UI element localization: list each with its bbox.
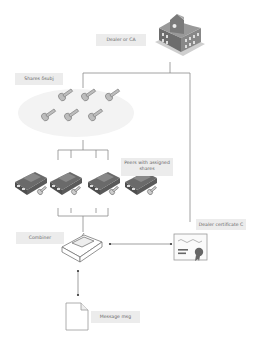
building-icon [155,14,205,56]
combiner-label: Combiner [16,232,64,244]
message-label: Message msg [91,311,140,323]
certificate-label: Dealer certificate C [196,219,246,230]
peers-label-line2: shares [123,166,171,172]
dealer-label: Dealer or CA [96,34,146,46]
shares-label: Shares δsubj [15,73,63,85]
car-icon [88,172,120,195]
combiner-certificate-arrow [109,243,172,245]
document-icon [66,303,88,330]
car-icon [50,172,82,195]
combiner-message-arrow [77,270,79,296]
combiner-car-icon [62,233,102,262]
certificate-icon [174,234,207,261]
connectors [58,62,190,232]
peers-label: Peers with assigned shares [121,158,173,176]
